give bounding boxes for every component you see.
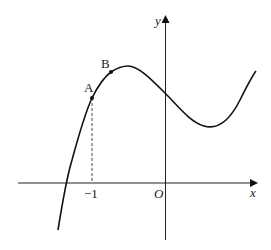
point-a xyxy=(90,96,94,100)
y-axis-label: y xyxy=(153,13,161,28)
x-axis-label: x xyxy=(249,185,256,200)
point-b-label: B xyxy=(101,56,110,71)
tick-label-neg1: −1 xyxy=(84,186,98,201)
point-a-label: A xyxy=(84,80,94,95)
origin-label: O xyxy=(154,186,164,201)
function-graph: A B y x O −1 xyxy=(0,0,271,250)
